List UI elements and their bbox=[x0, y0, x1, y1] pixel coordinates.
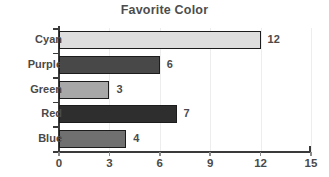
gridline bbox=[261, 28, 262, 152]
chart-title: Favorite Color bbox=[0, 3, 329, 17]
x-tick-label-12: 12 bbox=[254, 157, 267, 169]
y-tick-mark bbox=[53, 28, 59, 30]
y-tick-mark bbox=[53, 77, 59, 79]
y-tick-mark bbox=[53, 126, 59, 128]
x-tick-mark bbox=[109, 152, 111, 156]
bar-value-label: 6 bbox=[167, 58, 173, 70]
x-tick-mark bbox=[159, 152, 161, 156]
y-tick-label-cyan: Cyan bbox=[35, 33, 62, 45]
x-tick-mark bbox=[58, 152, 60, 156]
x-tick-label-15: 15 bbox=[305, 157, 318, 169]
x-tick-mark bbox=[310, 152, 312, 156]
gridline bbox=[311, 28, 312, 152]
bar bbox=[59, 81, 109, 99]
bar bbox=[59, 105, 177, 123]
x-axis-line bbox=[58, 151, 311, 153]
y-tick-label-purple: Purple bbox=[28, 58, 62, 70]
x-tick-mark bbox=[209, 152, 211, 156]
x-tick-mark bbox=[260, 152, 262, 156]
bar bbox=[59, 56, 160, 74]
bar-value-label: 4 bbox=[133, 132, 139, 144]
x-tick-label-9: 9 bbox=[207, 157, 213, 169]
y-tick-label-red: Red bbox=[41, 107, 62, 119]
bar bbox=[59, 31, 261, 49]
y-tick-label-green: Green bbox=[30, 83, 62, 95]
x-tick-label-6: 6 bbox=[157, 157, 163, 169]
bar bbox=[59, 130, 126, 148]
bar-value-label: 3 bbox=[116, 83, 122, 95]
bar-chart: Favorite Color 12Cyan6Purple3Green7Red4B… bbox=[0, 0, 329, 177]
bar-value-label: 7 bbox=[184, 107, 190, 119]
x-tick-label-3: 3 bbox=[106, 157, 112, 169]
y-tick-label-blue: Blue bbox=[38, 132, 62, 144]
bar-value-label: 12 bbox=[268, 33, 280, 45]
y-tick-mark bbox=[53, 53, 59, 55]
y-tick-mark bbox=[53, 102, 59, 104]
x-tick-label-0: 0 bbox=[56, 157, 62, 169]
